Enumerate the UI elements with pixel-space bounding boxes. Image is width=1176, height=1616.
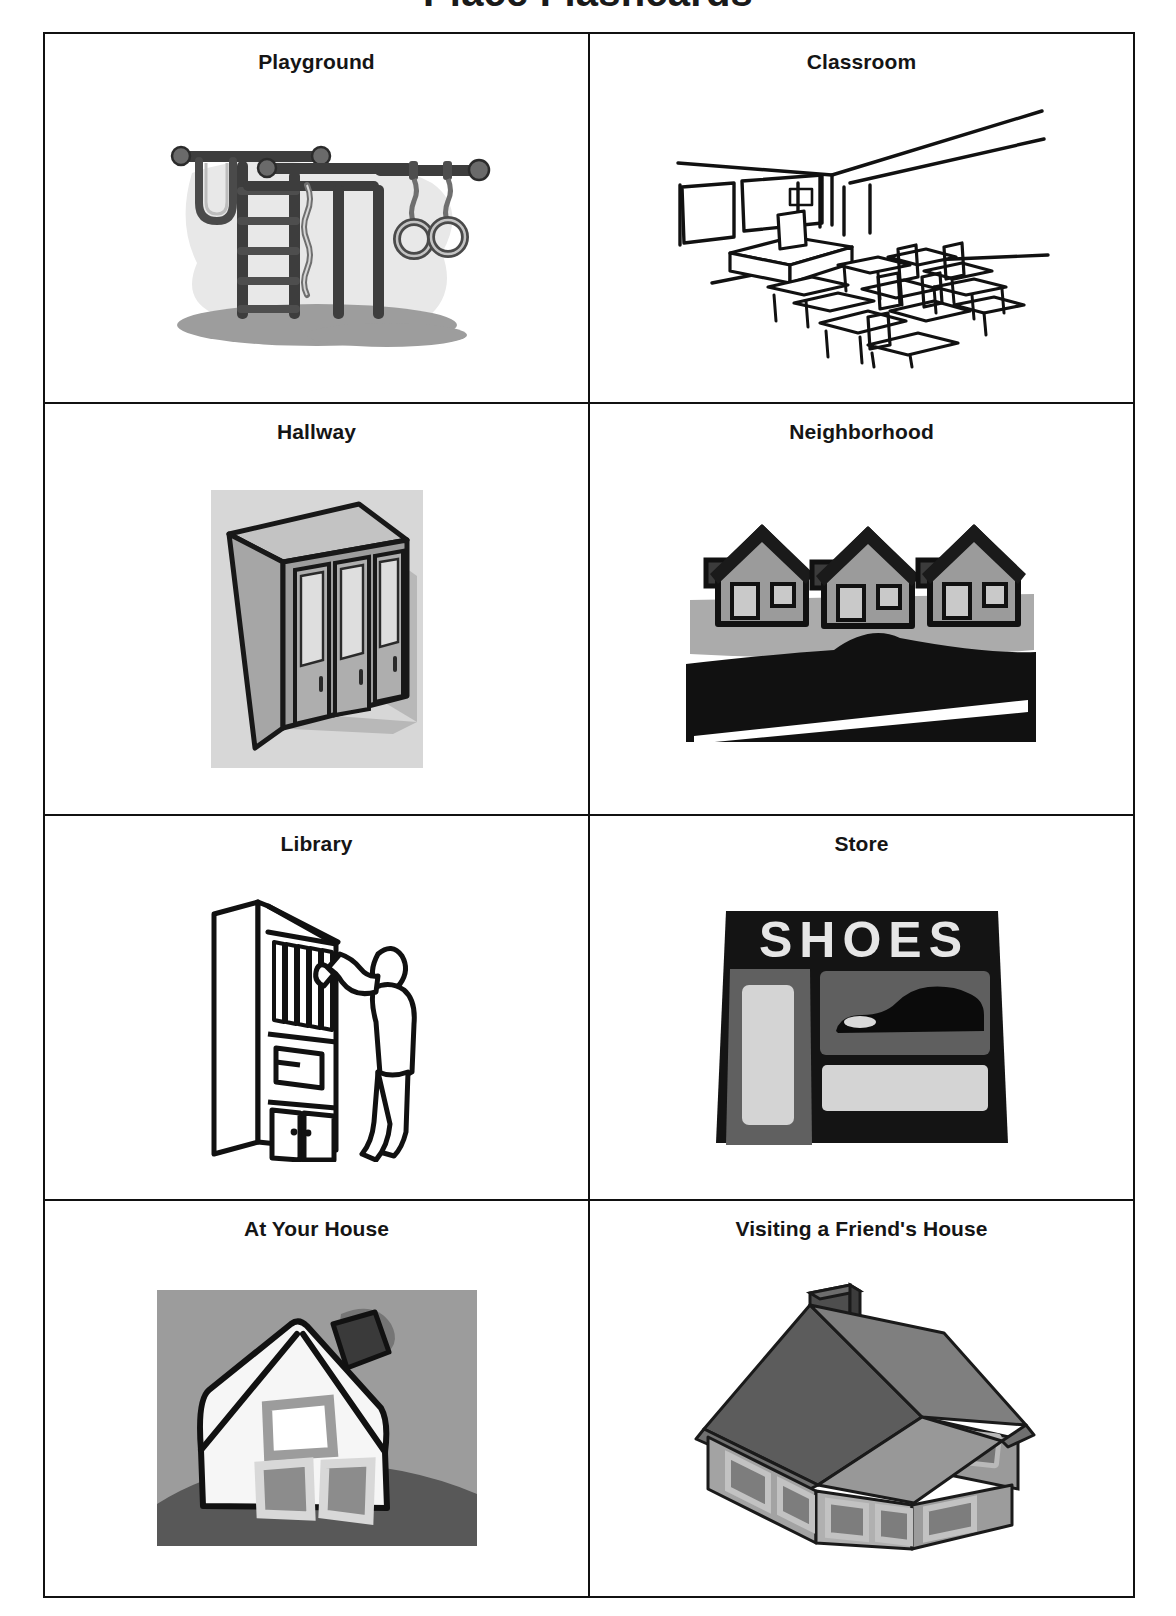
store-sign-text: SHOES	[758, 912, 968, 968]
flashcard-art	[590, 73, 1133, 402]
flashcard-cell-playground[interactable]: Playground	[44, 33, 589, 403]
flashcard-art	[45, 855, 588, 1199]
flashcard-art	[45, 1240, 588, 1596]
shoe-store-icon: SHOES	[716, 907, 1008, 1147]
flashcards-table: Playground	[43, 32, 1135, 1598]
flashcard-classroom: Classroom	[590, 34, 1133, 402]
flashcard-art: SHOES	[590, 855, 1133, 1199]
isometric-house-icon	[682, 1277, 1042, 1559]
flashcard-neighborhood: Neighborhood	[590, 404, 1133, 814]
flashcard-hallway: Hallway	[45, 404, 588, 814]
flashcard-cell-store[interactable]: Store SHOES	[589, 815, 1134, 1200]
flashcard-label: Neighborhood	[789, 420, 934, 443]
flashcard-label: Store	[834, 832, 888, 855]
playground-icon	[137, 113, 497, 363]
flashcard-cell-at-your-house[interactable]: At Your House	[44, 1200, 589, 1597]
flashcard-label: Classroom	[807, 50, 916, 73]
flashcard-label: Visiting a Friend's House	[735, 1217, 987, 1240]
flashcards-body: Playground	[44, 33, 1134, 1597]
flashcard-art	[590, 443, 1133, 814]
flashcard-art	[45, 73, 588, 402]
house	[706, 524, 814, 624]
flashcard-store: Store SHOES	[590, 816, 1133, 1199]
flashcard-at-your-house: At Your House	[45, 1201, 588, 1596]
flashcard-label: At Your House	[244, 1217, 389, 1240]
house	[918, 524, 1026, 624]
flashcard-row: At Your House	[44, 1200, 1134, 1597]
page-title: Place Flashcards	[0, 0, 1176, 15]
neighborhood-icon	[684, 504, 1040, 754]
flashcard-row: Playground	[44, 33, 1134, 403]
flashcard-label: Playground	[258, 50, 375, 73]
library-icon	[202, 892, 432, 1162]
cottage-icon	[157, 1290, 477, 1546]
flashcard-art	[590, 1240, 1133, 1596]
flashcard-cell-hallway[interactable]: Hallway	[44, 403, 589, 815]
flashcard-label: Hallway	[277, 420, 356, 443]
flashcard-row: Library	[44, 815, 1134, 1200]
flashcard-row: Hallway	[44, 403, 1134, 815]
flashcard-cell-neighborhood[interactable]: Neighborhood	[589, 403, 1134, 815]
classroom-icon	[672, 105, 1052, 370]
flashcard-visiting-a-friends-house: Visiting a Friend's House	[590, 1201, 1133, 1596]
house	[812, 526, 920, 626]
flashcard-cell-classroom[interactable]: Classroom	[589, 33, 1134, 403]
flashcard-art	[45, 443, 588, 814]
lockers-icon	[211, 490, 423, 768]
flashcard-cell-library[interactable]: Library	[44, 815, 589, 1200]
flashcard-label: Library	[281, 832, 353, 855]
flashcard-library: Library	[45, 816, 588, 1199]
flashcard-cell-visiting-a-friends-house[interactable]: Visiting a Friend's House	[589, 1200, 1134, 1597]
flashcard-playground: Playground	[45, 34, 588, 402]
